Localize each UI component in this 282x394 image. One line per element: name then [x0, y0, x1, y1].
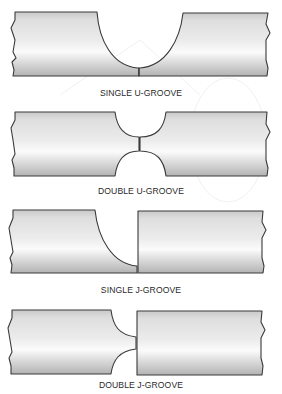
single-j-groove-label: SINGLE J-GROOVE — [0, 285, 282, 295]
single-u-right-plate — [139, 13, 270, 76]
double-u-groove-label: DOUBLE U-GROOVE — [0, 186, 282, 196]
single-u-groove-label: SINGLE U-GROOVE — [0, 88, 282, 98]
double-j-right-plate — [137, 311, 265, 375]
groove-weld-diagram — [0, 0, 282, 394]
double-j-groove-label: DOUBLE J-GROOVE — [0, 380, 282, 390]
double-j-left-plate — [8, 310, 136, 374]
double-u-right-plate — [140, 112, 270, 176]
single-j-left-plate — [9, 210, 137, 273]
double-u-left-plate — [11, 112, 139, 176]
double-j-groove-joint — [8, 310, 265, 375]
single-j-groove-joint — [9, 210, 266, 273]
single-u-left-plate — [11, 12, 139, 76]
double-u-groove-joint — [11, 112, 270, 176]
single-j-right-plate — [138, 211, 266, 273]
single-u-groove-joint — [11, 12, 270, 76]
